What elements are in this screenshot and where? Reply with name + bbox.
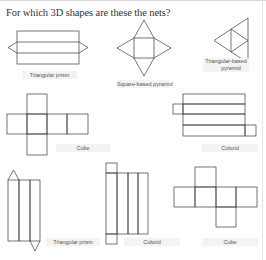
net-7-cuboid bbox=[106, 163, 148, 244]
answer-label-net-3-line1: Triangular-based bbox=[203, 58, 249, 65]
net-5-cuboid bbox=[173, 94, 256, 136]
net-1-triangular-prism bbox=[8, 31, 88, 64]
answer-label-net-2: Square-based pyramid bbox=[117, 80, 169, 88]
answer-label-net-8: Cube bbox=[202, 238, 258, 246]
net-3-triangular-based-pyramid bbox=[214, 18, 248, 63]
answer-label-net-3: Triangular-based pyramid bbox=[203, 58, 249, 72]
answer-label-net-4: Cube bbox=[56, 144, 110, 152]
answer-label-net-3-line2: pyramid bbox=[203, 65, 249, 72]
answer-label-net-7: Cuboid bbox=[124, 238, 180, 246]
answer-label-net-5: Cuboid bbox=[202, 144, 258, 152]
net-2-square-based-pyramid bbox=[117, 20, 171, 76]
nets-canvas bbox=[0, 0, 266, 260]
net-8-cube bbox=[174, 167, 257, 227]
answer-label-net-1: Triangular prism bbox=[22, 71, 77, 79]
net-6-triangular-prism bbox=[8, 170, 40, 251]
answer-label-net-6: Triangular prism bbox=[46, 238, 100, 246]
